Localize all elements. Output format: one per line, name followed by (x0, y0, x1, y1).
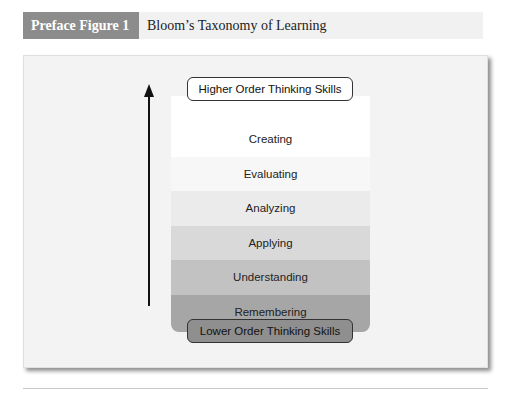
layer-understanding: Understanding (171, 260, 370, 295)
figure-caption: Preface Figure 1 Bloom’s Taxonomy of Lea… (23, 12, 483, 39)
layer-applying: Applying (171, 226, 370, 261)
layer-analyzing: Analyzing (171, 191, 370, 226)
higher-order-label: Higher Order Thinking Skills (187, 77, 353, 101)
layer-evaluating: Evaluating (171, 157, 370, 192)
taxonomy-stack: Creating Evaluating Analyzing Applying U… (171, 96, 370, 332)
figure-number-label: Preface Figure 1 (23, 12, 139, 39)
layer-creating: Creating (171, 122, 370, 157)
arrow-shaft (148, 94, 150, 306)
figure-title: Bloom’s Taxonomy of Learning (147, 18, 327, 34)
lower-order-label: Lower Order Thinking Skills (187, 319, 353, 343)
divider (23, 388, 488, 389)
